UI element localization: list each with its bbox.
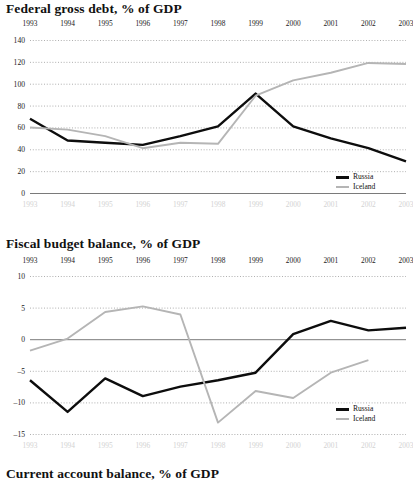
legend-item-russia: Russia [336,404,375,414]
year-tick-label: 1993 [23,441,38,450]
legend-swatch-iceland-icon [336,186,349,188]
series-line-iceland [30,63,406,148]
year-tick-label: 2002 [361,441,376,450]
legend-item-iceland: Iceland [336,414,375,424]
legend-swatch-iceland-icon [336,418,349,420]
year-tick-label: 1995 [98,200,113,209]
year-tick-label: 1994 [60,19,75,28]
year-tick-label: 2002 [361,256,376,265]
chart-2-year-axis-bottom: 1993199419951996199719981999200020012002… [0,441,412,455]
legend-label-russia: Russia [353,172,373,182]
year-tick-label: 2001 [323,256,338,265]
year-tick-label: 1994 [60,441,75,450]
legend-label-iceland: Iceland [353,182,375,192]
year-tick-label: 1999 [248,441,263,450]
y-axis-tick-label: 20 [0,167,25,176]
year-tick-label: 1998 [211,19,226,28]
year-tick-label: 2000 [286,256,301,265]
year-tick-label: 2001 [323,441,338,450]
y-axis-tick-label: 5 [0,303,25,312]
year-tick-label: 2001 [323,200,338,209]
y-axis-tick-label: 10 [0,272,25,281]
series-line-iceland [30,306,368,422]
chart-1-legend: Russia Iceland [336,172,375,192]
year-tick-label: 2001 [323,19,338,28]
year-tick-label: 1993 [23,19,38,28]
year-tick-label: 1998 [211,441,226,450]
chart-1-year-axis-bottom: 1993199419951996199719981999200020012002… [0,200,412,214]
year-tick-label: 2000 [286,200,301,209]
year-tick-label: 1993 [23,200,38,209]
legend-label-iceland: Iceland [353,414,375,424]
y-axis-tick-label: 40 [0,145,25,154]
year-tick-label: 2003 [399,19,413,28]
legend-item-russia: Russia [336,172,375,182]
y-axis-tick-label: 0 [0,189,25,198]
year-tick-label: 1996 [135,441,150,450]
year-tick-label: 1997 [173,19,188,28]
year-tick-label: 2002 [361,19,376,28]
year-tick-label: 1996 [135,19,150,28]
year-tick-label: 1995 [98,441,113,450]
y-axis-tick-label: 140 [0,36,25,45]
year-tick-label: 1999 [248,200,263,209]
year-tick-label: 1997 [173,256,188,265]
year-tick-label: 1996 [135,256,150,265]
chart-2-legend: Russia Iceland [336,404,375,424]
year-tick-label: 1996 [135,200,150,209]
legend-swatch-russia-icon [336,176,349,179]
legend-label-russia: Russia [353,404,373,414]
year-tick-label: 1995 [98,256,113,265]
series-line-russia [30,94,406,162]
year-tick-label: 1994 [60,200,75,209]
year-tick-label: 1997 [173,441,188,450]
y-axis-tick-label: 120 [0,57,25,66]
y-axis-tick-label: 100 [0,79,25,88]
y-axis-tick-label: 60 [0,123,25,132]
year-tick-label: 1993 [23,256,38,265]
y-axis-tick-label: –15 [0,430,25,439]
y-axis-tick-label: 0 [0,335,25,344]
year-tick-label: 1995 [98,19,113,28]
chart-2-year-axis-top: 1993199419951996199719981999200020012002… [0,256,412,270]
legend-item-iceland: Iceland [336,182,375,192]
year-tick-label: 2000 [286,441,301,450]
y-axis-tick-label: –10 [0,398,25,407]
year-tick-label: 1997 [173,200,188,209]
year-tick-label: 2003 [399,200,413,209]
chart-1-title: Federal gross debt, % of GDP [6,1,182,17]
year-tick-label: 2000 [286,19,301,28]
year-tick-label: 2003 [399,256,413,265]
year-tick-label: 1999 [248,19,263,28]
year-tick-label: 1998 [211,256,226,265]
year-tick-label: 2003 [399,441,413,450]
chart-2-title: Fiscal budget balance, % of GDP [6,236,200,252]
y-axis-tick-label: 80 [0,101,25,110]
y-axis-tick-label: –5 [0,366,25,375]
year-tick-label: 1994 [60,256,75,265]
chart-3-title: Current account balance, % of GDP [6,466,219,482]
legend-swatch-russia-icon [336,408,349,411]
chart-1-year-axis-top: 1993199419951996199719981999200020012002… [0,19,412,33]
year-tick-label: 2002 [361,200,376,209]
year-tick-label: 1998 [211,200,226,209]
year-tick-label: 1999 [248,256,263,265]
